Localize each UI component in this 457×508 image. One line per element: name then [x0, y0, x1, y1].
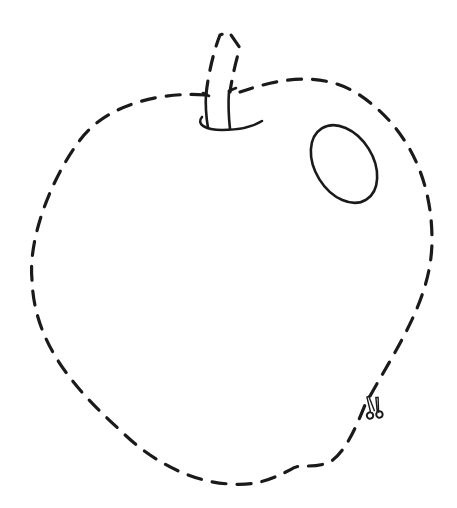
apple-stem [200, 32, 262, 130]
apple-outline [32, 79, 432, 484]
stem-line-left [206, 93, 208, 128]
stem-line-right [229, 91, 230, 129]
stem-cut-line [206, 32, 240, 95]
apple-cut-line [32, 79, 432, 484]
apple-highlight [297, 113, 391, 215]
apple-cutout-worksheet: apple [0, 0, 457, 508]
